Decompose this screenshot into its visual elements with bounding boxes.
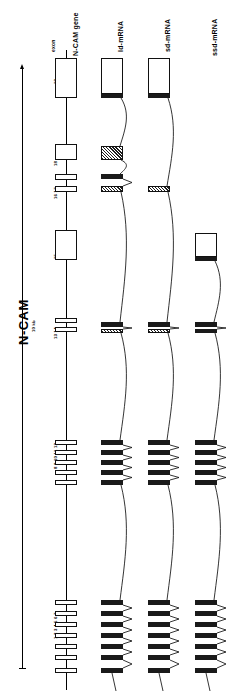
ssd-mrna-intron-connector xyxy=(217,660,226,668)
ld-mrna-intron-connector xyxy=(123,475,132,480)
sd-mrna-intron-connector xyxy=(170,627,179,633)
ssd-mrna-intron-connector xyxy=(214,485,220,600)
ld-mrna-intron-connector xyxy=(120,192,126,322)
ssd-mrna-intron-connector xyxy=(217,638,226,644)
sd-mrna-intron-connector xyxy=(170,465,179,470)
sd-mrna-intron-connector xyxy=(167,333,173,440)
sd-mrna-intron-connector xyxy=(170,445,179,450)
sd-mrna-intron-connector xyxy=(167,98,173,186)
ssd-mrna-intron-connector xyxy=(214,333,220,440)
sd-mrna-intron-connector xyxy=(170,605,179,611)
ssd-mrna-intron-connector xyxy=(217,616,226,622)
sd-mrna-tail xyxy=(159,673,163,691)
ld-mrna-intron-connector xyxy=(123,605,132,611)
ld-mrna-intron-connector xyxy=(123,627,132,633)
ld-mrna-intron-connector xyxy=(123,465,132,470)
ssd-mrna-intron-connector xyxy=(217,605,226,611)
ssd-mrna-intron-connector xyxy=(217,649,226,655)
ssd-mrna-intron-connector xyxy=(214,261,220,322)
ld-mrna-intron-connector xyxy=(123,649,132,655)
ld-mrna-intron-connector xyxy=(123,327,132,329)
ld-mrna-intron-connector xyxy=(123,660,132,668)
ld-mrna-intron-connector xyxy=(123,445,132,450)
ld-mrna-intron-connector xyxy=(120,333,126,440)
ld-mrna-intron-connector xyxy=(123,616,132,622)
sd-mrna-intron-connector xyxy=(170,327,179,329)
ssd-mrna-intron-connector xyxy=(217,475,226,480)
ld-mrna-intron-connector xyxy=(123,179,132,186)
ld-mrna-tail xyxy=(112,673,116,691)
ssd-mrna-intron-connector xyxy=(217,445,226,450)
sd-mrna-intron-connector xyxy=(170,649,179,655)
ld-mrna-intron-connector xyxy=(123,638,132,644)
ld-mrna-intron-connector xyxy=(123,455,132,460)
sd-mrna-intron-connector xyxy=(170,616,179,622)
ssd-mrna-intron-connector xyxy=(217,465,226,470)
splice-connector-lines xyxy=(0,0,244,696)
ld-mrna-intron-connector xyxy=(120,160,126,174)
sd-mrna-intron-connector xyxy=(170,638,179,644)
sd-mrna-intron-connector xyxy=(170,660,179,668)
ncam-gene-splicing-figure: exon N-CAM gene ld-mRNA sd-mRNA ssd-mRNA… xyxy=(0,0,244,696)
sd-mrna-intron-connector xyxy=(170,475,179,480)
sd-mrna-intron-connector xyxy=(167,485,173,600)
sd-mrna-intron-connector xyxy=(167,192,173,322)
ssd-mrna-intron-connector xyxy=(217,327,226,329)
ssd-mrna-tail xyxy=(206,673,210,691)
ld-mrna-intron-connector xyxy=(120,485,126,600)
ld-mrna-intron-connector xyxy=(120,98,126,146)
ssd-mrna-intron-connector xyxy=(217,455,226,460)
sd-mrna-intron-connector xyxy=(170,455,179,460)
ssd-mrna-intron-connector xyxy=(217,627,226,633)
